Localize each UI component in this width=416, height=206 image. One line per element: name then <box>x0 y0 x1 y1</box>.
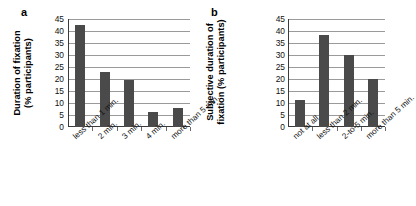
y-tick-label: 5 <box>48 111 64 119</box>
panel-a-plot-area <box>68 19 190 127</box>
gridline <box>68 43 190 44</box>
y-tick-label: 10 <box>48 99 64 107</box>
y-tick-label: 35 <box>269 39 285 47</box>
y-axis-line <box>68 19 69 127</box>
y-tick-label: 15 <box>48 87 64 95</box>
y-tick-label: 30 <box>48 51 64 59</box>
gridline <box>288 43 385 44</box>
y-tick-label: 30 <box>269 51 285 59</box>
y-tick-label: 20 <box>269 75 285 83</box>
panel-b-y-tick-labels: 051015202530354045 <box>269 16 285 129</box>
panel-b-y-axis-title-line1: Subjective duration of <box>205 11 216 133</box>
y-tick-label: 25 <box>48 63 64 71</box>
y-tick-label: 40 <box>48 27 64 35</box>
y-tick-label: 15 <box>269 87 285 95</box>
y-tick-label: 45 <box>269 15 285 23</box>
y-axis-line <box>288 19 289 127</box>
gridline <box>288 67 385 68</box>
y-tick-label: 0 <box>269 123 285 131</box>
gridline <box>68 67 190 68</box>
bar <box>75 25 85 127</box>
bar <box>124 80 134 127</box>
panel-b-y-axis-title: Subjective duration of fixation (% parti… <box>205 11 226 133</box>
panel-a-y-tick-labels: 051015202530354045 <box>48 16 64 129</box>
panel-a-y-axis-title-line2: (% participants) <box>23 13 34 133</box>
gridline <box>288 19 385 20</box>
bar <box>319 35 329 127</box>
y-tick-label: 45 <box>48 15 64 23</box>
y-tick-label: 25 <box>269 63 285 71</box>
panel-a: a Duration of fixation (% participants) … <box>0 0 200 206</box>
x-tick-mark <box>337 127 338 131</box>
gridline <box>288 31 385 32</box>
y-tick-label: 20 <box>48 75 64 83</box>
y-tick-label: 5 <box>269 111 285 119</box>
gridline <box>68 31 190 32</box>
y-tick-label: 10 <box>269 99 285 107</box>
y-tick-label: 35 <box>48 39 64 47</box>
y-tick-label: 0 <box>48 123 64 131</box>
panel-a-y-axis-title: Duration of fixation (% participants) <box>12 13 33 133</box>
panel-b-y-axis-title-line2: fixation (% participants) <box>216 11 227 133</box>
x-tick-mark <box>166 127 167 131</box>
panel-a-y-axis-title-line1: Duration of fixation <box>12 13 23 133</box>
y-tick-label: 40 <box>269 27 285 35</box>
gridline <box>68 19 190 20</box>
gridline <box>68 55 190 56</box>
panel-b: b Subjective duration of fixation (% par… <box>197 0 397 206</box>
gridline <box>288 55 385 56</box>
